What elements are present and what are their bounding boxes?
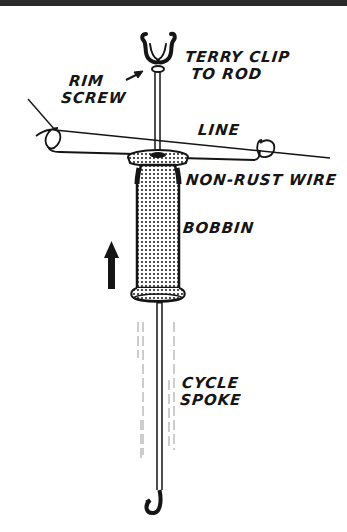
bobbin-icon bbox=[128, 150, 188, 302]
motion-lines bbox=[138, 322, 174, 460]
label-rim-screw-line2: SCREW bbox=[60, 90, 127, 107]
label-non-rust-wire: NON-RUST WIRE bbox=[185, 172, 338, 189]
label-line: LINE bbox=[197, 122, 241, 139]
label-cycle-spoke: CYCLE SPOKE bbox=[179, 375, 244, 409]
bobbin-diagram bbox=[0, 0, 347, 532]
label-cycle-spoke-line1: CYCLE bbox=[181, 375, 244, 392]
fishing-line bbox=[28, 99, 330, 158]
terry-clip-icon bbox=[142, 34, 174, 72]
label-rim-screw: RIM SCREW bbox=[60, 73, 129, 107]
label-bobbin: BOBBIN bbox=[182, 220, 255, 237]
label-terry-clip-line2: TO ROD bbox=[182, 66, 289, 83]
label-terry-clip: TERRY CLIP TO ROD bbox=[182, 49, 291, 83]
label-terry-clip-line1: TERRY CLIP bbox=[184, 49, 291, 66]
upward-direction-arrow bbox=[104, 241, 119, 289]
cycle-spoke-icon bbox=[146, 302, 162, 513]
label-rim-screw-line1: RIM bbox=[62, 73, 129, 90]
label-cycle-spoke-line2: SPOKE bbox=[179, 392, 242, 409]
